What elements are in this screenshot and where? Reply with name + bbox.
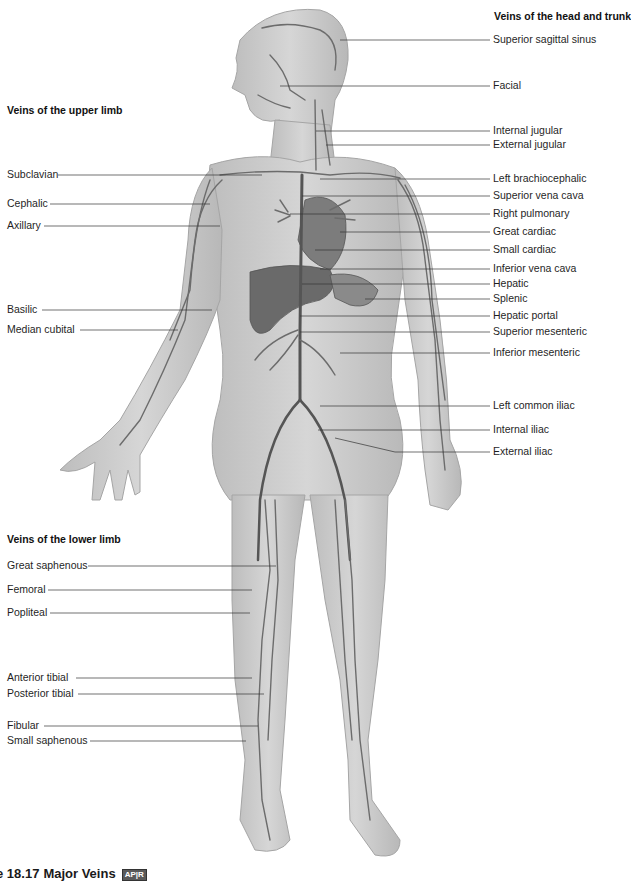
label-fibular: Fibular [7, 719, 39, 731]
group-title-lower-limb: Veins of the lower limb [7, 533, 121, 545]
label-femoral: Femoral [7, 583, 46, 595]
label-splenic: Splenic [493, 292, 527, 304]
caption-number: e 18.17 [0, 866, 39, 881]
label-left-common-iliac: Left common iliac [493, 399, 575, 411]
label-internal-jugular: Internal jugular [493, 124, 562, 136]
label-superior-mesenteric: Superior mesenteric [493, 325, 587, 337]
apr-badge-icon: AP|R [122, 869, 147, 881]
caption-title: Major Veins [43, 866, 115, 881]
label-median-cubital: Median cubital [7, 323, 75, 335]
label-superior-vena-cava: Superior vena cava [493, 189, 583, 201]
label-great-cardiac: Great cardiac [493, 225, 556, 237]
label-hepatic: Hepatic [493, 277, 529, 289]
group-title-upper-limb: Veins of the upper limb [7, 104, 123, 116]
label-basilic: Basilic [7, 303, 37, 315]
label-inferior-vena-cava: Inferior vena cava [493, 262, 576, 274]
label-right-pulmonary: Right pulmonary [493, 207, 569, 219]
label-popliteal: Popliteal [7, 606, 47, 618]
figure-caption: e 18.17Major VeinsAP|R [0, 866, 147, 881]
label-small-cardiac: Small cardiac [493, 243, 556, 255]
label-axillary: Axillary [7, 219, 41, 231]
group-title-head-trunk: Veins of the head and trunk [494, 10, 631, 22]
label-small-saphenous: Small saphenous [7, 734, 88, 746]
label-facial: Facial [493, 79, 521, 91]
label-left-brachiocephalic: Left brachiocephalic [493, 172, 586, 184]
label-posterior-tibial: Posterior tibial [7, 687, 74, 699]
label-anterior-tibial: Anterior tibial [7, 671, 68, 683]
label-subclavian: Subclavian [7, 168, 58, 180]
label-cephalic: Cephalic [7, 197, 48, 209]
label-great-saphenous: Great saphenous [7, 559, 88, 571]
label-internal-iliac: Internal iliac [493, 423, 549, 435]
label-external-iliac: External iliac [493, 445, 553, 457]
label-inferior-mesenteric: Inferior mesenteric [493, 346, 580, 358]
body-silhouette [60, 9, 461, 856]
label-superior-sagittal-sinus: Superior sagittal sinus [493, 33, 596, 45]
label-hepatic-portal: Hepatic portal [493, 309, 558, 321]
label-external-jugular: External jugular [493, 138, 566, 150]
